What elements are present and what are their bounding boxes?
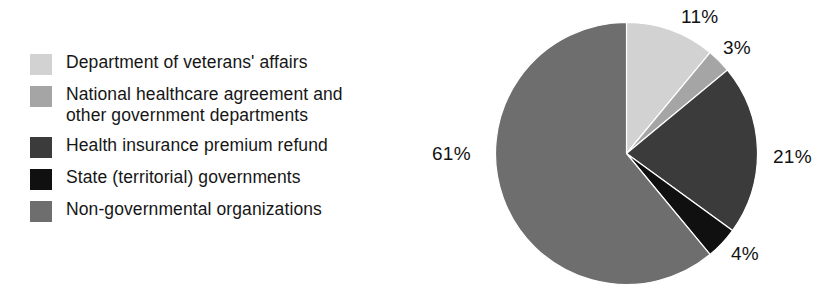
legend-item: Health insurance premium refund <box>30 135 450 158</box>
legend-item-label: Health insurance premium refund <box>66 135 328 156</box>
legend-swatch-icon <box>30 201 52 222</box>
legend-swatch-icon <box>30 54 52 75</box>
legend-swatch-icon <box>30 86 52 107</box>
legend-item-label: Department of veterans' affairs <box>66 52 308 73</box>
slice-value-label: 21% <box>773 146 812 168</box>
pie-slice-group <box>496 23 758 285</box>
legend-item-label: Non-governmental organizations <box>66 199 322 220</box>
legend-item: Non-governmental organizations <box>30 199 450 222</box>
slice-value-label: 4% <box>731 243 759 265</box>
pie-svg <box>495 22 758 285</box>
slice-value-label: 11% <box>681 6 719 28</box>
pie-chart-figure: Department of veterans' affairs National… <box>0 0 836 296</box>
legend-item: National healthcare agreement and other … <box>30 84 450 126</box>
legend-item-label: National healthcare agreement and other … <box>66 84 343 126</box>
legend-swatch-icon <box>30 137 52 158</box>
slice-value-label: 61% <box>432 143 471 165</box>
pie-graphic <box>495 22 758 285</box>
legend-item: State (territorial) governments <box>30 167 450 190</box>
legend-item: Department of veterans' affairs <box>30 52 450 75</box>
slice-value-label: 3% <box>723 37 751 59</box>
legend-item-label: State (territorial) governments <box>66 167 301 188</box>
chart-legend: Department of veterans' affairs National… <box>30 52 450 231</box>
legend-swatch-icon <box>30 169 52 190</box>
